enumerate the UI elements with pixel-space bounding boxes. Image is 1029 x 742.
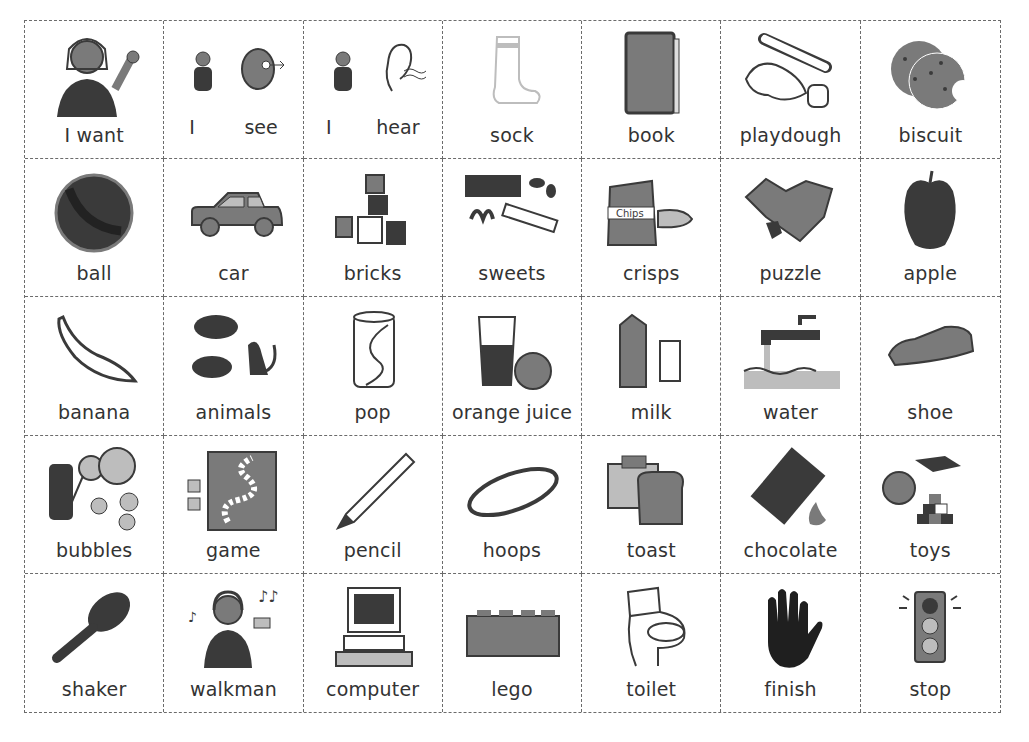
symbol-card: I want [25,21,164,159]
bubbles-icon [39,444,149,536]
toaster-icon [596,444,706,536]
symbol-card: toys [861,436,1000,574]
symbol-label: I [189,116,195,138]
computer-icon [318,582,428,674]
board-game-icon [178,444,288,536]
sweets-icon [457,167,567,259]
svg-text:Chips: Chips [616,208,644,219]
symbol-label: I [326,116,332,138]
symbol-card: toilet [582,574,721,712]
milk-carton-icon [596,305,706,397]
chocolate-icon [736,444,846,536]
soda-can-icon [318,305,428,397]
walkman-icon: ♪♪♪ [178,582,288,674]
lego-brick-icon [457,582,567,674]
banana-icon [39,305,149,397]
symbol-label: shaker [62,678,127,700]
symbol-label: game [206,539,261,561]
symbol-card: playdough [721,21,860,159]
symbol-label: car [218,262,249,284]
traffic-light-icon [875,582,985,674]
ball-icon [39,167,149,259]
biscuit-icon [875,29,985,121]
symbol-label: finish [764,678,816,700]
tap-water-icon [736,305,846,397]
person-signing-want-icon [39,29,149,121]
symbol-label: bubbles [56,539,133,561]
symbol-card: shaker [25,574,164,712]
symbol-card: biscuit [861,21,1000,159]
symbol-card: Ihear [304,21,443,159]
symbol-card: bubbles [25,436,164,574]
symbol-card: ♪♪♪walkman [164,574,303,712]
symbol-card: book [582,21,721,159]
symbol-label: see [244,116,277,138]
puzzle-icon [736,167,846,259]
symbol-label: crisps [623,262,680,284]
symbol-card: lego [443,574,582,712]
symbol-label: biscuit [898,124,962,146]
symbol-label: hear [376,116,419,138]
symbol-card: toast [582,436,721,574]
symbol-label: stop [909,678,951,700]
symbol-card: Chipscrisps [582,159,721,297]
symbol-label: hoops [483,539,541,561]
symbol-card: bricks [304,159,443,297]
symbol-label: animals [196,401,272,423]
symbol-label: shoe [907,401,953,423]
toilet-icon [596,582,706,674]
symbol-card: game [164,436,303,574]
symbol-label: computer [326,678,419,700]
symbol-label: chocolate [744,539,838,561]
symbol-label: I want [64,124,124,146]
svg-text:♪♪: ♪♪ [258,587,278,606]
symbol-card: stop [861,574,1000,712]
toys-icon [875,444,985,536]
book-icon [596,29,706,121]
crisps-icon: Chips [596,167,706,259]
symbol-card: hoops [443,436,582,574]
symbol-card: computer [304,574,443,712]
animals-icon [178,305,288,397]
svg-text:♪: ♪ [188,609,197,625]
person-and-ear-icon [318,29,428,121]
symbol-label: pencil [344,539,402,561]
sock-icon [457,29,567,121]
maraca-icon [39,582,149,674]
symbol-label: toys [910,539,951,561]
symbol-card: sweets [443,159,582,297]
symbol-label: toast [627,539,676,561]
symbol-card: pencil [304,436,443,574]
symbol-label: sock [490,124,534,146]
symbol-card: finish [721,574,860,712]
symbol-card: ball [25,159,164,297]
symbol-label: bricks [344,262,402,284]
symbol-label: milk [631,401,672,423]
shoe-icon [875,305,985,397]
apple-icon [875,167,985,259]
symbol-card: milk [582,297,721,435]
orange-juice-icon [457,305,567,397]
symbol-label: walkman [190,678,277,700]
symbol-label: ball [77,262,112,284]
car-icon [178,167,288,259]
pencil-icon [318,444,428,536]
symbol-card: sock [443,21,582,159]
symbol-card: orange juice [443,297,582,435]
symbol-card: water [721,297,860,435]
symbol-label: puzzle [759,262,821,284]
symbol-label: orange juice [452,401,572,423]
symbol-label-pair: Ihear [304,116,442,138]
symbol-label: banana [58,401,130,423]
hoop-icon [457,444,567,536]
symbol-label-pair: Isee [164,116,302,138]
symbol-card: car [164,159,303,297]
symbol-card: pop [304,297,443,435]
symbol-label: pop [355,401,391,423]
symbol-label: playdough [740,124,842,146]
symbol-card: animals [164,297,303,435]
person-and-eye-icon [178,29,288,121]
symbol-card: banana [25,297,164,435]
symbol-card: apple [861,159,1000,297]
symbol-card: Isee [164,21,303,159]
